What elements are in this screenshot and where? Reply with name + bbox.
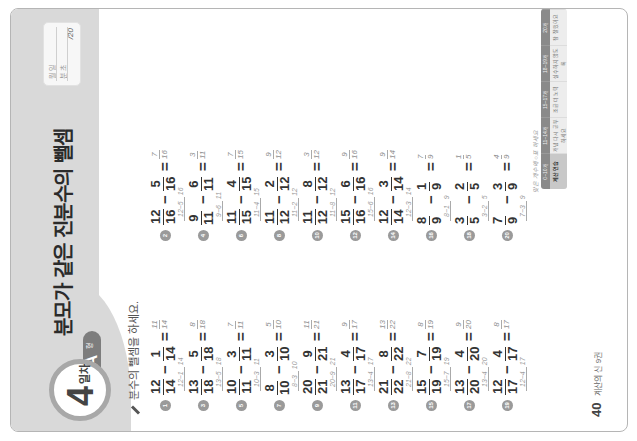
type-unit: 형 bbox=[84, 343, 94, 349]
level-cell[interactable]: 실수하지 않도록 bbox=[550, 45, 567, 81]
equals-sign: = bbox=[384, 332, 401, 341]
work-denominator: 14 bbox=[177, 357, 184, 365]
level-header-cell: 18~19개 bbox=[541, 45, 550, 81]
answer-numerator: 7 bbox=[150, 150, 160, 159]
equals-sign: = bbox=[422, 332, 439, 341]
level-header-cell: 0~10개 bbox=[541, 153, 550, 189]
problem-11: 111317−417=91713−4 17 bbox=[339, 221, 373, 411]
answer-field[interactable]: 79 bbox=[416, 155, 435, 159]
minus-sign: − bbox=[194, 365, 211, 374]
answer-field[interactable]: 715 bbox=[226, 150, 245, 159]
answer-numerator: 9 bbox=[454, 320, 464, 329]
numerator: 4 bbox=[453, 347, 468, 361]
minuend-fraction: 89 bbox=[415, 216, 444, 225]
answer-field[interactable]: 818 bbox=[188, 320, 207, 329]
denominator: 17 bbox=[506, 379, 520, 395]
answer-denominator: 14 bbox=[388, 150, 397, 159]
numerator: 3 bbox=[263, 347, 278, 361]
answer-denominator: 9 bbox=[502, 155, 511, 159]
handwritten-work: 8−1 9 bbox=[443, 195, 451, 221]
problem-5: 51011−311=71110−3 11 bbox=[225, 221, 259, 411]
subtrahend-fraction: 719 bbox=[415, 347, 444, 361]
denominator: 19 bbox=[430, 379, 444, 395]
numerator: 13 bbox=[187, 379, 202, 395]
answer-field[interactable]: 912 bbox=[264, 150, 283, 159]
denominator: 21 bbox=[316, 379, 330, 395]
level-cell[interactable]: 계산 연습 bbox=[550, 153, 567, 189]
answer-numerator: 9 bbox=[340, 320, 350, 329]
level-cell[interactable]: 개념 다시 공부하세요 bbox=[550, 117, 567, 153]
numerator: 6 bbox=[187, 177, 202, 191]
answer-field[interactable]: 817 bbox=[492, 320, 511, 329]
answer-field[interactable]: 716 bbox=[150, 150, 169, 159]
minuend-fraction: 1320 bbox=[453, 379, 482, 395]
answer-numerator: 7 bbox=[226, 150, 236, 159]
score-box[interactable]: 월 일 분 초 /20 bbox=[43, 22, 81, 86]
problem-14: 141214−314=91412−3 14 bbox=[377, 51, 411, 241]
equals-sign: = bbox=[156, 162, 173, 171]
answer-denominator: 18 bbox=[198, 320, 207, 329]
equals-sign: = bbox=[422, 162, 439, 171]
answer-field[interactable]: 917 bbox=[340, 320, 359, 329]
pencil-icon bbox=[130, 405, 139, 414]
work-expression: 12−3 bbox=[405, 197, 413, 221]
answer-field[interactable]: 1121 bbox=[302, 320, 321, 329]
minus-sign: − bbox=[232, 195, 249, 204]
numerator: 15 bbox=[415, 379, 430, 395]
answer-field[interactable]: 914 bbox=[378, 150, 397, 159]
problem-20: 2079−39=497−3 9 bbox=[491, 51, 525, 241]
handwritten-work: 15−6 16 bbox=[367, 187, 375, 221]
subtrahend-fraction: 311 bbox=[225, 347, 254, 361]
minuend-fraction: 1318 bbox=[187, 379, 216, 395]
problem-number: 8 bbox=[274, 230, 285, 241]
answer-field[interactable]: 510 bbox=[264, 320, 283, 329]
work-denominator: 16 bbox=[367, 187, 374, 195]
problem-18: 1835−25=153−2 5 bbox=[453, 51, 487, 241]
problem-1: 11214−114=111412−1 14 bbox=[149, 221, 183, 411]
level-table-header: 0~10개 11~14개 15~17개 18~19개 20개 bbox=[541, 9, 550, 189]
subtrahend-fraction: 518 bbox=[187, 347, 216, 361]
equals-sign: = bbox=[384, 162, 401, 171]
answer-numerator: 4 bbox=[492, 155, 502, 159]
answer-field[interactable]: 311 bbox=[188, 151, 207, 159]
problem-number: 11 bbox=[350, 400, 361, 411]
handwritten-work: 10−3 11 bbox=[253, 358, 261, 391]
denominator: 22 bbox=[392, 379, 406, 395]
minus-sign: − bbox=[156, 195, 173, 204]
level-cell[interactable]: 조금 더 노력 bbox=[550, 81, 567, 117]
answer-field[interactable]: 312 bbox=[302, 150, 321, 159]
denominator: 17 bbox=[354, 379, 368, 395]
minuend-fraction: 1214 bbox=[149, 379, 178, 395]
numerator: 7 bbox=[491, 216, 506, 225]
answer-numerator: 11 bbox=[302, 320, 312, 329]
answer-denominator: 9 bbox=[426, 155, 435, 159]
denominator: 12 bbox=[316, 209, 330, 225]
work-denominator: 21 bbox=[329, 357, 336, 365]
level-cell[interactable]: 참 잘했어요 bbox=[550, 9, 567, 45]
answer-field[interactable]: 49 bbox=[492, 155, 511, 159]
page-frame: A 형 4 일차 분모가 같은 진분수의 뺄셈 월 일 분 초 /20 분수의 … bbox=[10, 8, 628, 432]
answer-field[interactable]: 1322 bbox=[378, 320, 397, 329]
answer-field[interactable]: 819 bbox=[416, 320, 435, 329]
minus-sign: − bbox=[346, 195, 363, 204]
minus-sign: − bbox=[308, 195, 325, 204]
denominator: 16 bbox=[164, 177, 178, 191]
work-denominator: 15 bbox=[253, 188, 260, 196]
answer-field[interactable]: 920 bbox=[454, 320, 473, 329]
work-denominator: 22 bbox=[405, 357, 412, 365]
problem-number: 7 bbox=[274, 400, 285, 411]
minuend-fraction: 1214 bbox=[377, 209, 406, 225]
answer-field[interactable]: 711 bbox=[226, 321, 245, 329]
numerator: 5 bbox=[187, 347, 202, 361]
problem-number: 6 bbox=[236, 230, 247, 241]
answer-field[interactable]: 916 bbox=[340, 150, 359, 159]
numerator: 11 bbox=[225, 209, 240, 225]
answer-field[interactable]: 15 bbox=[454, 155, 473, 159]
answer-numerator: 8 bbox=[492, 320, 502, 329]
handwritten-work: 13−4 17 bbox=[367, 357, 375, 391]
problem-number: 5 bbox=[236, 400, 247, 411]
handwritten-work: 20−9 21 bbox=[329, 357, 337, 391]
minuend-fraction: 2122 bbox=[377, 379, 406, 395]
answer-field[interactable]: 1114 bbox=[150, 320, 169, 329]
denominator: 5 bbox=[468, 216, 482, 225]
